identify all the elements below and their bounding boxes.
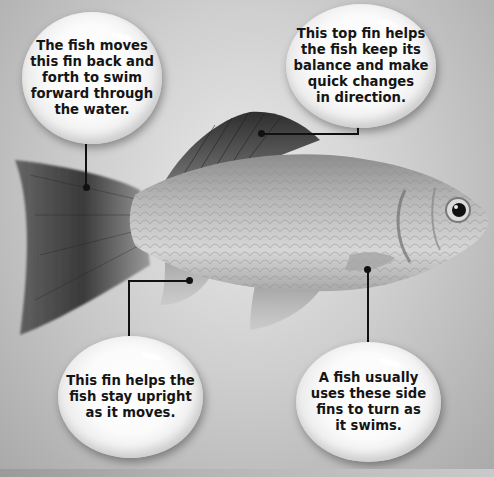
connector-dot-anal [186, 277, 193, 284]
connector-tail [85, 144, 87, 188]
connector-anal-horizontal [128, 280, 189, 282]
bubble-highlight [140, 351, 163, 361]
pelvic-fin [250, 285, 320, 330]
connector-dot-pectoral [364, 266, 371, 273]
callout-dorsal-fin: This top fin helps the fish keep its bal… [286, 4, 436, 128]
callout-text: A fish usually uses these side fins to t… [311, 370, 426, 434]
bottom-edge [0, 469, 494, 477]
connector-dorsal-horizontal [261, 133, 359, 135]
callout-text: The fish moves this fin back and forth t… [30, 38, 154, 118]
connector-dot-tail [83, 184, 90, 191]
bubble-highlight [378, 357, 401, 367]
connector-anal-vertical [128, 280, 130, 336]
connector-dot-dorsal [258, 130, 265, 137]
fish-diagram: The fish moves this fin back and forth t… [0, 0, 494, 477]
callout-text: This top fin helps the fish keep its bal… [294, 26, 429, 106]
callout-pectoral-fin: A fish usually uses these side fins to t… [296, 342, 441, 462]
callout-tail-fin: The fish moves this fin back and forth t… [22, 12, 162, 144]
callout-anal-fin: This fin helps the fish stay upright as … [58, 336, 203, 458]
connector-pectoral [367, 270, 369, 342]
callout-text: This fin helps the fish stay upright as … [66, 373, 194, 421]
